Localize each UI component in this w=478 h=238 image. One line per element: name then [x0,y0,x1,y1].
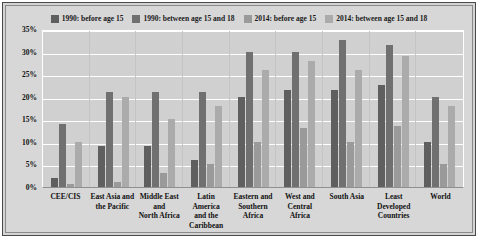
x-axis-label-line: Least Developed [371,192,416,211]
bar[interactable] [59,124,66,187]
x-axis-label-line: Caribbean [184,221,229,231]
x-axis-label-line: East Asia and [90,192,135,202]
bar[interactable] [355,70,362,187]
legend-label: 1990: between age 15 and 18 [143,14,234,23]
bar[interactable] [331,90,338,187]
legend-swatch-icon [244,15,252,23]
chart-area: 35%30%25%20%15%10%5%0% CEE/CISEast Asia … [14,30,464,226]
bar[interactable] [440,164,447,187]
bar-group [90,31,137,187]
x-axis-labels: CEE/CISEast Asia andthe PacificMiddle Ea… [42,190,464,230]
legend-item[interactable]: 2014: between age 15 and 18 [325,14,427,23]
bar[interactable] [114,182,121,187]
x-axis-label-line: Countries [371,211,416,221]
x-axis-label: CEE/CIS [42,190,89,230]
bar-group [323,31,370,187]
x-axis-label-line: Eastern and [231,192,276,202]
bar[interactable] [207,164,214,187]
y-axis-tick: 25% [22,71,37,79]
x-axis-label-line: World [418,192,463,202]
bar[interactable] [432,97,439,187]
bar[interactable] [254,142,261,187]
y-axis-tick: 20% [22,94,37,102]
bar-group [136,31,183,187]
bar-group [370,31,417,187]
y-axis: 35%30%25%20%15%10%5%0% [14,30,40,188]
legend-label: 1990: before age 15 [62,14,124,23]
bar[interactable] [152,92,159,187]
bar-group [416,31,463,187]
bar[interactable] [448,106,455,187]
bar[interactable] [191,160,198,187]
x-axis-label: South Asia [323,190,370,230]
bar[interactable] [215,106,222,187]
x-axis-label: Middle EastandNorth Africa [136,190,183,230]
bar-group [43,31,90,187]
bar[interactable] [51,178,58,187]
bar[interactable] [262,70,269,187]
bar-group [230,31,277,187]
chart-screenshot: 1990: before age 151990: between age 15 … [0,0,478,238]
plot-area [42,30,464,188]
x-axis-label: Latin Americaand theCaribbean [183,190,230,230]
y-axis-tick: 5% [26,161,37,169]
x-axis-label-line: Africa [231,211,276,221]
bar[interactable] [300,128,307,187]
chart-legend: 1990: before age 151990: between age 15 … [6,14,472,23]
x-axis-label-line: Latin America [184,192,229,211]
legend-item[interactable]: 1990: before age 15 [51,14,124,23]
x-axis-label-line: Central Africa [277,202,322,221]
bar[interactable] [122,97,129,187]
bar[interactable] [394,126,401,187]
x-axis-label-line: West and [277,192,322,202]
bar-group [183,31,230,187]
legend-swatch-icon [325,15,333,23]
bar[interactable] [378,85,385,187]
x-axis-label-line: Southern [231,202,276,212]
legend-item[interactable]: 2014: before age 15 [244,14,317,23]
bar[interactable] [199,92,206,187]
x-axis-label-line: CEE/CIS [43,192,88,202]
bar[interactable] [144,146,151,187]
bar[interactable] [106,92,113,187]
bar[interactable] [238,97,245,187]
legend-swatch-icon [51,15,59,23]
bar[interactable] [424,142,431,187]
bar[interactable] [292,52,299,187]
y-axis-tick: 0% [26,184,37,192]
legend-item[interactable]: 1990: between age 15 and 18 [132,14,234,23]
chart-panel: 1990: before age 151990: between age 15 … [5,5,473,233]
bar[interactable] [246,52,253,187]
x-axis-label-line: the Pacific [90,202,135,212]
y-axis-tick: 30% [22,49,37,57]
bar[interactable] [386,45,393,187]
x-axis-label-line: North Africa [137,211,182,221]
y-axis-tick: 35% [22,26,37,34]
bar[interactable] [75,142,82,187]
bar[interactable] [284,90,291,187]
legend-label: 2014: between age 15 and 18 [336,14,427,23]
bar[interactable] [339,40,346,187]
legend-label: 2014: before age 15 [255,14,317,23]
bar[interactable] [347,142,354,187]
x-axis-label-line: and the [184,211,229,221]
x-axis-label: Least DevelopedCountries [370,190,417,230]
bar[interactable] [402,56,409,187]
bar[interactable] [168,119,175,187]
bar[interactable] [160,173,167,187]
y-axis-tick: 10% [22,139,37,147]
x-axis-label-line: Middle East [137,192,182,202]
x-axis-label-line: South Asia [324,192,369,202]
legend-swatch-icon [132,15,140,23]
y-axis-tick: 15% [22,116,37,124]
bar-group [276,31,323,187]
x-axis-label: East Asia andthe Pacific [89,190,136,230]
x-axis-label: West andCentral Africa [276,190,323,230]
x-axis-label: Eastern andSouthernAfrica [230,190,277,230]
bar-groups [43,31,463,187]
bar[interactable] [98,146,105,187]
x-axis-label-line: and [137,202,182,212]
bar[interactable] [67,184,74,187]
x-axis-label: World [417,190,464,230]
bar[interactable] [308,61,315,187]
